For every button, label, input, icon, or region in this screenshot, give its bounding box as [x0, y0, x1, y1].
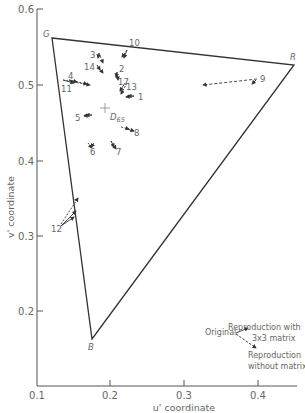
point-label-2: 2	[119, 64, 124, 74]
x-tick-label: 0.4	[250, 390, 266, 401]
point-label-11: 11	[61, 84, 72, 94]
legend: Original Reproduction with 3x3 matrix Re…	[205, 323, 305, 371]
y-axis-title: v' coordinate	[5, 176, 16, 238]
vertex-label-g: G	[43, 29, 50, 39]
point-label-7: 7	[116, 147, 121, 157]
point-label-10: 10	[129, 38, 140, 48]
y-tick-label: 0.4	[18, 156, 34, 167]
point-labels: 10 3 14 2 4 11 17 13 1 9 5 8 6 7 12	[51, 38, 265, 234]
point-label-5: 5	[75, 113, 80, 123]
y-tick-label: 0.5	[18, 80, 34, 91]
point-label-4: 4	[68, 71, 73, 81]
white-point-d65: D65	[100, 103, 125, 124]
white-point-label: D65	[110, 112, 125, 124]
point-label-12: 12	[51, 224, 62, 234]
point-label-8: 8	[134, 128, 139, 138]
vertex-label-r: R	[290, 52, 296, 62]
point-label-13: 13	[126, 82, 137, 92]
legend-with-matrix-line2: 3x3 matrix	[252, 334, 296, 343]
point-label-6: 6	[90, 147, 95, 157]
x-tick-label: 0.1	[29, 390, 45, 401]
point-label-9: 9	[260, 74, 265, 84]
y-axis: 0.6 0.5 0.4 0.3 0.2 v' coordinate	[5, 4, 43, 386]
y-tick-label: 0.3	[18, 231, 34, 242]
point-label-1: 1	[138, 92, 143, 102]
chromaticity-chart: 0.6 0.5 0.4 0.3 0.2 v' coordinate 0.1 0.…	[0, 0, 305, 413]
x-tick-label: 0.3	[176, 390, 192, 401]
point-label-14: 14	[84, 62, 95, 72]
x-axis: 0.1 0.2 0.3 0.4 u' coordinate	[29, 380, 297, 413]
x-tick-label: 0.2	[102, 390, 118, 401]
gamut-triangle: G R B	[43, 29, 296, 352]
legend-with-matrix-line1: Reproduction with	[228, 323, 301, 332]
legend-without-matrix-line2: without matrix	[248, 362, 305, 371]
vertex-label-b: B	[88, 342, 94, 352]
data-arrows	[61, 50, 257, 226]
y-tick-label: 0.6	[18, 4, 34, 15]
x-axis-title: u' coordinate	[153, 402, 215, 413]
y-tick-label: 0.2	[18, 306, 34, 317]
point-label-3: 3	[90, 50, 95, 60]
legend-without-matrix-line1: Reproduction	[248, 351, 301, 360]
